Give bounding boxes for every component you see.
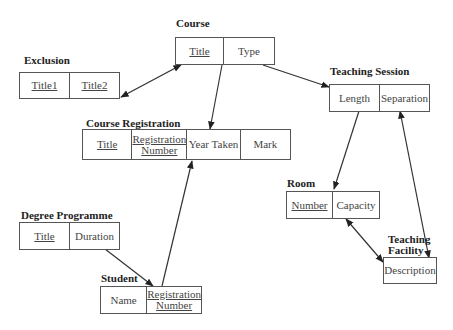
attribute-room-number: Number	[287, 192, 332, 218]
entity-room[interactable]: Number Capacity	[286, 191, 380, 219]
attribute-exclusion-title1: Title1	[20, 73, 69, 98]
relationship-teaching-session-room	[334, 111, 359, 189]
relationship-course-course-registration	[210, 65, 222, 129]
attribute-teaching-session-separation: Separation	[379, 85, 429, 111]
entity-degree-programme[interactable]: Title Duration	[19, 222, 120, 250]
entity-title-degree-programme: Degree Programme	[21, 209, 113, 221]
attribute-teaching-session-length: Length	[330, 85, 379, 111]
entity-exclusion[interactable]: Title1 Title2	[19, 72, 120, 99]
attribute-course-title: Title	[176, 38, 223, 64]
attribute-room-capacity: Capacity	[332, 192, 379, 218]
attribute-course-registration-year-taken: Year Taken	[186, 130, 239, 159]
attribute-course-registration-title: Title	[83, 130, 131, 159]
er-diagram: Course Title Type Exclusion Title1 Title…	[0, 0, 453, 330]
entity-course-registration[interactable]: Title Registration Number Year Taken Mar…	[82, 129, 291, 160]
relationship-room-teaching-facility	[346, 219, 383, 262]
entity-title-course: Course	[176, 17, 210, 29]
attribute-course-registration-mark: Mark	[240, 130, 290, 159]
entity-student[interactable]: Name Registration Number	[100, 286, 202, 314]
entity-title-room: Room	[287, 177, 315, 189]
attribute-degree-programme-title: Title	[20, 223, 69, 249]
attribute-student-name: Name	[101, 287, 146, 313]
entity-teaching-facility[interactable]: Description	[383, 257, 437, 284]
entity-title-teaching-session: Teaching Session	[330, 65, 409, 77]
attribute-student-registration-number: Registration Number	[146, 287, 201, 313]
entity-title-exclusion: Exclusion	[24, 54, 70, 66]
entity-title-student: Student	[101, 272, 138, 284]
entity-title-course-registration: Course Registration	[86, 117, 180, 129]
attribute-exclusion-title2: Title2	[69, 73, 119, 98]
attribute-teaching-facility-description: Description	[384, 258, 436, 283]
entity-course[interactable]: Title Type	[175, 37, 275, 65]
relationship-course-teaching-session	[263, 65, 329, 87]
attribute-course-type: Type	[223, 38, 274, 64]
entity-teaching-session[interactable]: Length Separation	[329, 84, 430, 112]
attribute-course-registration-registration-number: Registration Number	[131, 130, 186, 159]
attribute-degree-programme-duration: Duration	[69, 223, 119, 249]
relationship-student-course-registration	[162, 161, 192, 286]
entity-title-teaching-facility: Teaching Facility	[388, 234, 438, 256]
relationship-exclusion-course	[121, 65, 181, 97]
